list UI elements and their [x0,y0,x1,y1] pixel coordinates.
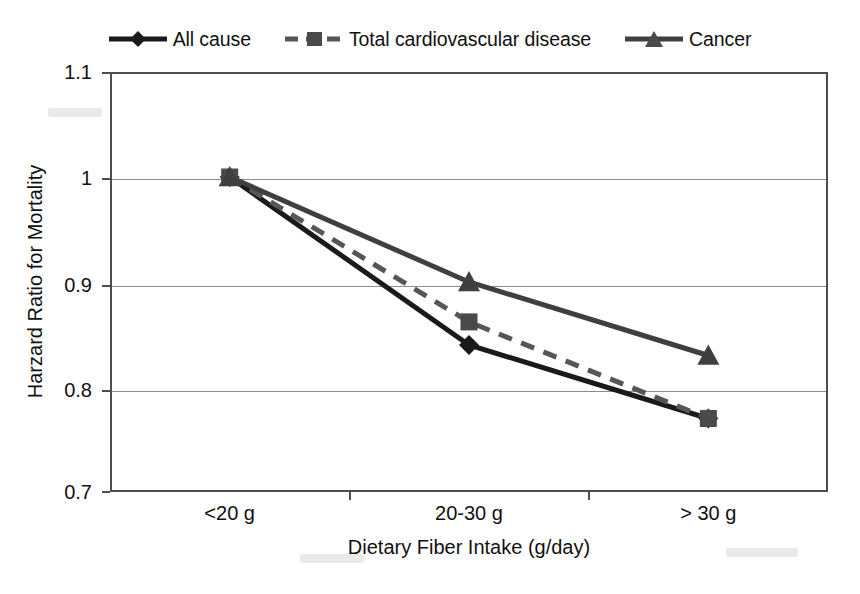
gridline-0.8 [112,391,826,392]
y-tick-mark [102,285,110,287]
x-tick-mark [588,490,590,500]
gridline-1.0 [112,179,826,180]
square-marker-icon [285,29,343,49]
x-axis-tick-labels: <20 g 20-30 g > 30 g [110,500,828,528]
y-axis-tick-labels: 1.1 1 0.9 0.8 0.7 [0,0,104,594]
y-tick-mark [102,491,110,493]
x-tick-mark [349,490,351,500]
legend-label-total-cardiovascular-disease: Total cardiovascular disease [349,29,591,49]
plot-area [110,72,828,492]
legend-item-total-cardiovascular-disease: Total cardiovascular disease [285,29,591,49]
x-tick-label: > 30 g [589,500,828,528]
triangle-marker-icon [625,29,683,49]
legend-item-all-cause: All cause [109,29,251,49]
legend-label-cancer: Cancer [689,29,751,49]
legend-label-all-cause: All cause [173,29,251,49]
x-tick-label: 20-30 g [349,500,588,528]
diamond-marker-icon [109,29,167,49]
y-tick-mark [102,178,110,180]
chart-figure: All cause Total cardiovascular disease C… [0,0,860,594]
x-axis-title: Dietary Fiber Intake (g/day) [110,536,828,559]
x-tick-label: <20 g [110,500,349,528]
y-tick-mark [102,390,110,392]
gridline-0.9 [112,286,826,287]
y-axis-title: Harzard Ratio for Mortality [24,72,47,492]
y-tick-mark [102,72,110,74]
chart-legend: All cause Total cardiovascular disease C… [0,22,860,56]
legend-item-cancer: Cancer [625,29,751,49]
